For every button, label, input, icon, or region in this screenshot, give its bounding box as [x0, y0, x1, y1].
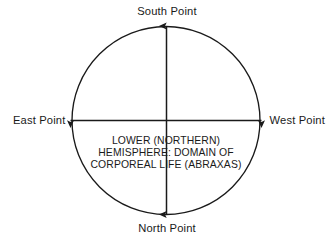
center-caption-line-1: LOWER (NORTHERN): [67, 135, 265, 147]
diagram-canvas: South Point North Point East Point West …: [0, 0, 334, 241]
label-north-point: North Point: [0, 222, 334, 235]
center-caption-line-2: HEMISPHERE: DOMAIN OF: [67, 147, 265, 159]
label-west-point: West Point: [270, 114, 325, 127]
label-south-point: South Point: [0, 5, 334, 18]
center-caption-line-3: CORPOREAL LIFE (ABRAXAS): [67, 159, 265, 171]
center-caption: LOWER (NORTHERN) HEMISPHERE: DOMAIN OF C…: [67, 135, 265, 172]
label-east-point: East Point: [13, 114, 66, 127]
